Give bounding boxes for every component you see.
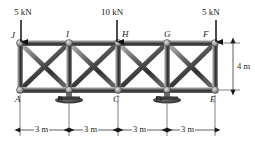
dim-label-height: 4 m <box>236 62 251 71</box>
node-label-C: C <box>113 95 119 104</box>
dim-label-span-2: 3 m <box>83 125 98 134</box>
node-label-A: A <box>15 95 21 104</box>
truss-figure: 5 kN 10 kN 5 kN J I H G F A B C D E 3 m … <box>0 0 255 156</box>
joint-G <box>164 40 171 47</box>
joint-C <box>115 87 122 94</box>
dim-label-span-1: 3 m <box>34 125 49 134</box>
load-arrows <box>21 20 216 42</box>
node-label-F: F <box>203 30 209 39</box>
joint-F <box>212 40 219 47</box>
member-F-E <box>212 43 218 90</box>
dim-label-span-3: 3 m <box>132 125 147 134</box>
node-label-B: B <box>57 95 63 104</box>
member-J-A <box>17 43 23 90</box>
node-label-I: I <box>66 30 69 39</box>
node-label-D: D <box>155 95 162 104</box>
joint-J <box>17 40 24 47</box>
node-label-E: E <box>210 95 216 104</box>
member-G-D <box>164 43 170 90</box>
node-label-G: G <box>164 30 171 39</box>
member-H-C <box>115 43 121 90</box>
dim-label-span-4: 3 m <box>180 125 195 134</box>
load-label-H: 10 kN <box>101 8 123 17</box>
load-label-J: 5 kN <box>14 8 32 17</box>
member-I-B <box>66 43 72 90</box>
joint-H <box>115 40 122 47</box>
joint-I <box>66 40 73 47</box>
joint-E <box>212 87 219 94</box>
node-label-J: J <box>11 31 15 40</box>
load-label-F: 5 kN <box>202 8 220 17</box>
node-label-H: H <box>122 30 129 39</box>
joint-A <box>17 87 24 94</box>
